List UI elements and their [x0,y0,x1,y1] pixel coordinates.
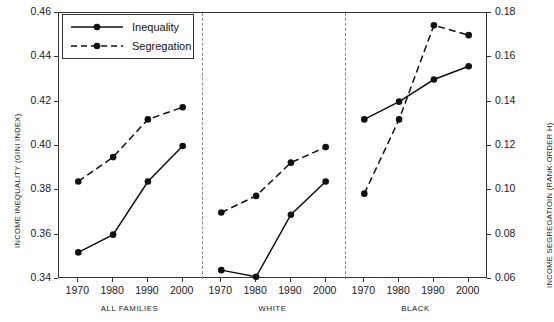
data-point-marker [253,273,260,280]
y-axis-left-tick-label: 0.46 [17,5,51,17]
y-axis-right-tick-label: 0.08 [495,227,515,239]
y-axis-left-tick-label: 0.36 [17,227,51,239]
series-line-segregation-white [221,147,325,212]
panel-label-all-families: ALL FAMILIES [101,304,158,313]
y-axis-left-tick-label: 0.38 [17,182,51,194]
legend-item-inequality: Inequality [69,19,187,35]
data-point-marker [110,231,117,238]
series-line-inequality-all-families [78,146,182,252]
series-line-segregation-all-families [78,107,182,181]
data-point-marker [75,178,82,185]
legend-label-segregation: Segregation [132,40,191,52]
x-axis-tick-label: 2000 [313,284,336,296]
data-point-marker [75,249,82,256]
data-point-marker [288,159,295,166]
y-axis-right-title: INCOME SEGREGATIOIN (RANK-ORDER H) [545,122,554,288]
x-axis-tick-label: 1990 [421,284,444,296]
data-point-marker [361,116,368,123]
data-point-marker [322,178,329,185]
series-line-inequality-white [221,181,325,276]
data-point-marker [179,143,186,150]
panel-label-white: WHITE [259,304,287,313]
data-point-marker [361,190,368,197]
x-axis-tick-label: 1970 [209,284,232,296]
dashed-line-marker-icon [69,39,125,53]
panel-separator [345,13,346,279]
x-axis-tick-label: 1990 [278,284,301,296]
y-axis-right-tick-label: 0.12 [495,138,515,150]
y-axis-left-tick-mark [54,278,58,279]
y-axis-right-tick-label: 0.16 [495,49,515,61]
data-point-marker [218,267,225,274]
series-line-inequality-black [364,66,468,119]
x-axis-tick-label: 1980 [100,284,123,296]
y-axis-left-tick-label: 0.40 [17,138,51,150]
data-point-marker [253,193,260,200]
y-axis-right-tick-label: 0.06 [495,271,515,283]
data-point-marker [322,144,329,151]
x-axis-tick-label: 1970 [66,284,89,296]
data-point-marker [110,154,117,161]
panel-separator [202,13,203,279]
x-axis-tick-label: 2000 [170,284,193,296]
data-point-marker [179,104,186,111]
x-axis-tick-label: 1980 [386,284,409,296]
data-point-marker [465,63,472,70]
x-axis-tick-label: 1970 [352,284,375,296]
data-point-marker [431,22,438,29]
y-axis-right-tick-label: 0.18 [495,5,515,17]
x-axis-tick-label: 1980 [243,284,266,296]
x-axis-tick-label: 1990 [135,284,158,296]
data-point-marker [218,209,225,216]
y-axis-left-tick-label: 0.42 [17,94,51,106]
y-axis-right-tick-label: 0.14 [495,94,515,106]
panel-label-black: BLACK [401,304,429,313]
legend-label-inequality: Inequality [132,21,179,33]
y-axis-left-tick-label: 0.44 [17,49,51,61]
data-point-marker [431,76,438,83]
solid-line-marker-icon [69,20,125,34]
data-point-marker [145,178,152,185]
x-axis-tick-label: 2000 [456,284,479,296]
series-line-segregation-black [364,25,468,193]
data-point-marker [465,32,472,39]
y-axis-right-tick-label: 0.10 [495,182,515,194]
data-point-marker [396,116,403,123]
legend-item-segregation: Segregation [69,38,187,54]
data-point-marker [145,116,152,123]
chart-legend: Inequality Segregation [62,14,194,59]
data-point-marker [396,98,403,105]
y-axis-left-tick-label: 0.34 [17,271,51,283]
data-point-marker [288,211,295,218]
